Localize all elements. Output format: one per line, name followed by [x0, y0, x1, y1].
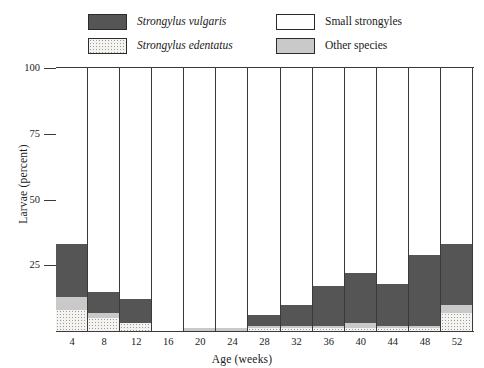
segment-strongylus-edentatus: [88, 318, 119, 331]
segment-other-species: [248, 326, 279, 329]
x-tick-label-36: 36: [313, 337, 345, 351]
x-tick-label-40: 40: [345, 337, 377, 351]
x-axis-tick-labels: 481216202428323640444852: [56, 337, 473, 351]
bar-column-week-40[interactable]: [345, 68, 377, 331]
y-tick-mark: [44, 200, 56, 201]
bar-column-week-16[interactable]: [152, 68, 184, 331]
chart-legend: Strongylus vulgaris Small strongyles Str…: [88, 10, 418, 58]
bar-column-week-4[interactable]: [56, 68, 88, 331]
y-axis-label: Larvae (percent): [17, 109, 29, 259]
segment-other-species: [56, 297, 87, 310]
segment-strongylus-vulgaris: [88, 292, 119, 313]
segment-strongylus-vulgaris: [441, 244, 472, 304]
dark-gray-swatch-icon: [88, 14, 127, 30]
legend-entry-small-strongyles: Small strongyles: [276, 14, 418, 30]
legend-entry-strongylus-vulgaris: Strongylus vulgaris: [88, 14, 276, 30]
segment-strongylus-vulgaris: [120, 299, 151, 323]
segment-strongylus-vulgaris: [56, 244, 87, 297]
segment-other-species: [441, 305, 472, 313]
legend-label-small-strongyles: Small strongyles: [325, 16, 402, 28]
legend-row-2: Strongylus edentatus Other species: [88, 34, 418, 58]
bar-column-week-48[interactable]: [409, 68, 441, 331]
y-tick-label-25: 25: [0, 260, 40, 271]
stippled-swatch-icon: [88, 38, 127, 54]
segment-strongylus-edentatus: [56, 310, 87, 331]
legend-label-strongylus-edentatus: Strongylus edentatus: [137, 40, 233, 52]
x-axis-label: Age (weeks): [0, 353, 484, 365]
x-tick-label-44: 44: [377, 337, 409, 351]
bar-column-week-24[interactable]: [216, 68, 248, 331]
y-tick-label-100: 100: [0, 63, 40, 74]
bar-column-week-44[interactable]: [377, 68, 409, 331]
bar-column-week-20[interactable]: [184, 68, 216, 331]
segment-strongylus-vulgaris: [281, 305, 312, 326]
y-tick-mark: [44, 68, 56, 69]
stacked-bar-group: [56, 68, 473, 331]
x-axis-line: [56, 331, 474, 332]
legend-label-strongylus-vulgaris: Strongylus vulgaris: [137, 16, 226, 28]
segment-strongylus-vulgaris: [409, 255, 440, 326]
x-tick-label-4: 4: [56, 337, 88, 351]
segment-other-species: [345, 323, 376, 328]
legend-entry-other-species: Other species: [276, 38, 418, 54]
x-tick-label-16: 16: [152, 337, 184, 351]
segment-other-species: [313, 326, 344, 329]
x-tick-label-8: 8: [88, 337, 120, 351]
segment-strongylus-vulgaris: [377, 284, 408, 326]
segment-strongylus-vulgaris: [345, 273, 376, 323]
segment-strongylus-vulgaris: [248, 315, 279, 326]
x-tick-label-32: 32: [281, 337, 313, 351]
segment-other-species: [281, 326, 312, 329]
x-tick-label-52: 52: [441, 337, 473, 351]
segment-other-species: [88, 313, 119, 318]
segment-other-species: [377, 326, 408, 329]
bar-column-week-32[interactable]: [281, 68, 313, 331]
bar-column-week-8[interactable]: [88, 68, 120, 331]
x-tick-label-20: 20: [184, 337, 216, 351]
legend-entry-strongylus-edentatus: Strongylus edentatus: [88, 38, 276, 54]
x-tick-label-28: 28: [248, 337, 280, 351]
bar-column-week-12[interactable]: [120, 68, 152, 331]
light-gray-swatch-icon: [276, 38, 315, 54]
bar-column-week-28[interactable]: [248, 68, 280, 331]
bar-column-week-36[interactable]: [313, 68, 345, 331]
segment-strongylus-edentatus: [120, 323, 151, 331]
x-tick-label-12: 12: [120, 337, 152, 351]
x-tick-label-48: 48: [409, 337, 441, 351]
legend-label-other-species: Other species: [325, 40, 387, 52]
legend-row-1: Strongylus vulgaris Small strongyles: [88, 10, 418, 34]
x-tick-label-24: 24: [216, 337, 248, 351]
segment-strongylus-vulgaris: [313, 286, 344, 325]
y-tick-mark: [44, 265, 56, 266]
white-swatch-icon: [276, 14, 315, 30]
y-tick-mark: [44, 134, 56, 135]
bar-column-week-52[interactable]: [441, 68, 473, 331]
segment-strongylus-edentatus: [441, 313, 472, 331]
segment-other-species: [409, 326, 440, 329]
